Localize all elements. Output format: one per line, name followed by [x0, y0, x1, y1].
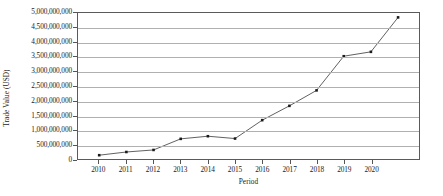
y-axis-tick-mark [73, 160, 77, 161]
x-axis-tick-mark [153, 160, 154, 164]
y-axis-tick-label: 4,500,000,000 [14, 23, 72, 31]
gridline [78, 146, 419, 147]
y-axis-tick-label: 2,000,000,000 [14, 97, 72, 105]
y-axis-tick-mark [73, 130, 77, 131]
x-axis-tick-mark [317, 160, 318, 164]
data-point-marker [397, 16, 400, 19]
x-axis-tick-mark [180, 160, 181, 164]
y-axis-tick-label: 3,500,000,000 [14, 52, 72, 60]
y-axis-tick-label: 3,000,000,000 [14, 67, 72, 75]
y-axis-tick-mark [73, 86, 77, 87]
y-axis-tick-mark [73, 101, 77, 102]
x-axis-tick-mark [208, 160, 209, 164]
y-axis-tick-label: 1,000,000,000 [14, 126, 72, 134]
gridline [78, 57, 419, 58]
y-axis-tick-mark [73, 116, 77, 117]
y-axis-tick-label: 4,000,000,000 [14, 38, 72, 46]
gridline [78, 43, 419, 44]
y-axis-tick-mark [73, 27, 77, 28]
data-point-marker [234, 137, 237, 140]
y-axis-tick-mark [73, 71, 77, 72]
gridline [78, 72, 419, 73]
data-point-marker [152, 149, 155, 152]
y-axis-tick-label: 0 [14, 156, 72, 164]
data-point-marker [125, 151, 128, 154]
x-axis-tick-mark [235, 160, 236, 164]
data-point-marker [98, 154, 101, 157]
x-axis-tick-mark [372, 160, 373, 164]
x-axis-tick-label: 2020 [352, 165, 392, 175]
data-point-marker [288, 105, 291, 108]
x-axis-title: Period [77, 177, 420, 187]
data-point-marker [261, 119, 264, 122]
data-point-marker [207, 135, 210, 138]
plot-area [77, 12, 420, 160]
gridline [78, 117, 419, 118]
y-axis-tick-label: 1,500,000,000 [14, 112, 72, 120]
y-axis-tick-mark [73, 145, 77, 146]
x-axis-tick-mark [98, 160, 99, 164]
x-axis-tick-mark [344, 160, 345, 164]
series-line-trade-value [78, 13, 419, 159]
gridline [78, 87, 419, 88]
y-axis-tick-mark [73, 56, 77, 57]
y-axis-tick-label: 5,000,000,000 [14, 8, 72, 16]
line-chart-figure: Trade Value (USD) 5,000,000,0004,500,000… [0, 0, 443, 196]
gridline [78, 28, 419, 29]
data-point-marker [370, 51, 373, 54]
y-axis-tick-mark [73, 42, 77, 43]
y-axis-tick-labels: 5,000,000,0004,500,000,0004,000,000,0003… [14, 12, 72, 160]
y-axis-title: Trade Value (USD) [0, 0, 14, 196]
y-axis-tick-mark [73, 12, 77, 13]
y-axis-tick-label: 500,000,000 [14, 141, 72, 149]
data-point-marker [179, 138, 182, 141]
x-axis-tick-labels: 2010201120122013201420152016201720182019… [77, 165, 420, 177]
gridline [78, 131, 419, 132]
gridline [78, 102, 419, 103]
x-axis-tick-mark [290, 160, 291, 164]
y-axis-tick-label: 2,500,000,000 [14, 82, 72, 90]
x-axis-tick-mark [262, 160, 263, 164]
x-axis-tick-mark [126, 160, 127, 164]
data-point-marker [315, 89, 318, 92]
